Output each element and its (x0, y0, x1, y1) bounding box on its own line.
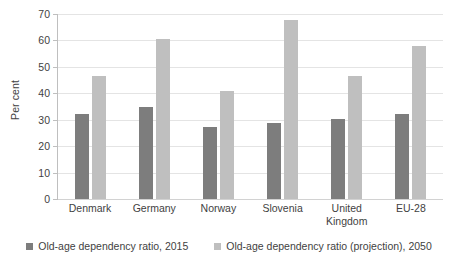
y-axis-tick-label: 50 (4, 61, 50, 73)
y-axis-tick-label: 30 (4, 114, 50, 126)
y-axis-tick-label: 0 (4, 193, 50, 205)
y-axis-tick-mark (53, 40, 57, 41)
y-axis-tick-label: 40 (4, 87, 50, 99)
bar (412, 46, 426, 199)
bar-group (122, 14, 186, 199)
y-axis-tick-label: 70 (4, 8, 50, 20)
legend-label: Old-age dependency ratio, 2015 (38, 240, 188, 252)
y-axis-tick-mark (53, 173, 57, 174)
bar-group (186, 14, 250, 199)
legend-item[interactable]: Old-age dependency ratio (projection), 2… (214, 240, 431, 252)
bar (92, 76, 106, 199)
x-axis-tick-label: Germany (122, 202, 186, 215)
y-axis-tick-label: 20 (4, 140, 50, 152)
bar (267, 123, 281, 199)
bar (139, 107, 153, 199)
bar (156, 39, 170, 199)
bar-group (251, 14, 315, 199)
y-axis-tick-mark (53, 93, 57, 94)
y-axis-tick-labels: 010203040506070 (0, 0, 50, 263)
x-axis-tick-label: EU-28 (379, 202, 443, 215)
bar (348, 76, 362, 199)
x-axis-tick-labels: DenmarkGermanyNorwaySloveniaUnitedKingdo… (58, 202, 443, 236)
chart-legend: Old-age dependency ratio, 2015Old-age de… (0, 240, 458, 252)
x-axis-tick-label: UnitedKingdom (315, 202, 379, 227)
bar (395, 114, 409, 199)
bar-group (58, 14, 122, 199)
y-axis-tick-mark (53, 14, 57, 15)
x-axis-tick-label: Denmark (58, 202, 122, 215)
bar (220, 91, 234, 199)
bar (284, 20, 298, 199)
bar-chart: Per cent 010203040506070 DenmarkGermanyN… (0, 0, 458, 263)
legend-swatch-icon (214, 243, 221, 250)
y-axis-tick-mark (53, 146, 57, 147)
gridline (58, 199, 443, 200)
x-axis-tick-label: Slovenia (251, 202, 315, 215)
y-axis-tick-mark (53, 67, 57, 68)
y-axis-tick-mark (53, 120, 57, 121)
bar (75, 114, 89, 199)
legend-label: Old-age dependency ratio (projection), 2… (226, 240, 431, 252)
bars-layer (58, 14, 443, 199)
legend-item[interactable]: Old-age dependency ratio, 2015 (26, 240, 188, 252)
x-axis-tick-label: Norway (186, 202, 250, 215)
bar (331, 119, 345, 199)
y-axis-tick-label: 60 (4, 34, 50, 46)
y-axis-tick-label: 10 (4, 167, 50, 179)
bar (203, 127, 217, 199)
bar-group (379, 14, 443, 199)
legend-swatch-icon (26, 243, 33, 250)
y-axis-tick-mark (53, 199, 57, 200)
bar-group (315, 14, 379, 199)
